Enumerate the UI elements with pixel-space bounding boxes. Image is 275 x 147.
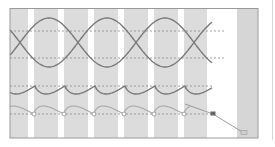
open-marker: [62, 112, 66, 116]
stripe-band: [64, 9, 88, 138]
open-marker: [92, 112, 96, 116]
end-square-marker: [241, 131, 247, 135]
waveform-diagram: [0, 0, 275, 147]
stripe-band: [154, 9, 178, 138]
open-marker: [182, 112, 186, 116]
filled-square-marker: [211, 112, 216, 116]
open-marker: [152, 112, 156, 116]
stripe-band: [124, 9, 148, 138]
stripe-band: [184, 9, 207, 138]
stripe-band: [10, 9, 28, 138]
stripe-band-group: [10, 9, 207, 138]
open-marker: [122, 112, 126, 116]
stripe-band: [94, 9, 118, 138]
open-marker: [32, 112, 36, 116]
scrollbar-track[interactable]: [272, 0, 273, 140]
right-panel-band: [237, 9, 258, 138]
stripe-band: [34, 9, 58, 138]
